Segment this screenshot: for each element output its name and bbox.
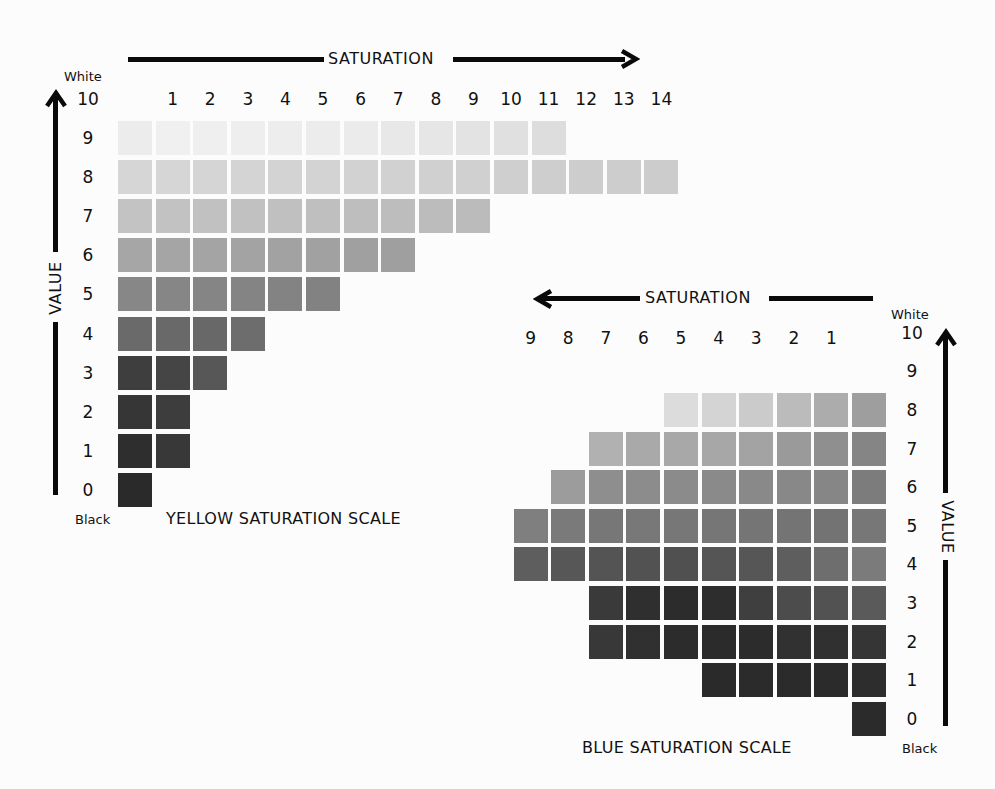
color-swatch — [702, 393, 736, 427]
color-swatch — [852, 393, 886, 427]
color-swatch — [193, 199, 227, 233]
color-swatch — [268, 238, 302, 272]
color-swatch — [551, 470, 585, 504]
value-tick: 2 — [897, 632, 927, 652]
blue-white-label: White — [891, 308, 929, 322]
yellow-value-arrow-line-bottom — [53, 322, 58, 495]
color-swatch — [702, 432, 736, 466]
color-swatch — [514, 547, 548, 581]
color-swatch — [702, 509, 736, 543]
color-swatch — [118, 356, 152, 390]
color-swatch — [193, 121, 227, 155]
yellow-value-arrow-line-top — [53, 96, 58, 252]
color-swatch — [702, 586, 736, 620]
value-tick: 5 — [73, 284, 103, 304]
saturation-tick: 6 — [346, 89, 376, 109]
value-tick: 10 — [897, 323, 927, 343]
yellow-saturation-arrow-line-left — [128, 57, 324, 62]
yellow-black-label: Black — [75, 513, 110, 527]
value-tick: 8 — [897, 400, 927, 420]
color-swatch — [456, 199, 490, 233]
blue-value-arrow-line-bottom — [943, 560, 948, 726]
color-swatch — [589, 625, 623, 659]
color-swatch — [702, 547, 736, 581]
color-swatch — [494, 160, 528, 194]
color-swatch — [532, 160, 566, 194]
color-swatch — [494, 121, 528, 155]
color-swatch — [589, 586, 623, 620]
color-swatch — [852, 702, 886, 736]
saturation-tick: 4 — [270, 89, 300, 109]
saturation-tick: 7 — [383, 89, 413, 109]
saturation-tick: 8 — [553, 328, 583, 348]
blue-value-arrow-line-top — [943, 335, 948, 493]
saturation-tick: 3 — [233, 89, 263, 109]
color-swatch — [664, 547, 698, 581]
saturation-tick: 5 — [308, 89, 338, 109]
color-swatch — [156, 434, 190, 468]
value-tick: 0 — [897, 709, 927, 729]
color-swatch — [532, 121, 566, 155]
color-swatch — [589, 470, 623, 504]
color-swatch — [306, 199, 340, 233]
color-swatch — [306, 238, 340, 272]
saturation-tick: 4 — [704, 328, 734, 348]
color-swatch — [156, 356, 190, 390]
color-swatch — [231, 121, 265, 155]
color-swatch — [118, 317, 152, 351]
color-swatch — [702, 625, 736, 659]
color-swatch — [644, 160, 678, 194]
color-swatch — [156, 199, 190, 233]
color-swatch — [852, 432, 886, 466]
color-swatch — [777, 586, 811, 620]
saturation-tick: 14 — [646, 89, 676, 109]
saturation-tick: 5 — [666, 328, 696, 348]
color-swatch — [777, 470, 811, 504]
color-swatch — [814, 586, 848, 620]
color-swatch — [551, 547, 585, 581]
color-swatch — [231, 160, 265, 194]
color-swatch — [193, 160, 227, 194]
color-swatch — [344, 238, 378, 272]
color-swatch — [419, 160, 453, 194]
color-swatch — [231, 277, 265, 311]
yellow-value-axis-label: VALUE — [46, 258, 65, 317]
color-swatch — [852, 509, 886, 543]
color-swatch — [814, 470, 848, 504]
blue-saturation-axis-label: SATURATION — [643, 288, 753, 307]
color-swatch — [702, 470, 736, 504]
color-swatch — [852, 547, 886, 581]
color-swatch — [739, 509, 773, 543]
color-swatch — [156, 238, 190, 272]
blue-black-label: Black — [902, 742, 937, 756]
color-swatch — [268, 160, 302, 194]
value-tick: 4 — [73, 324, 103, 344]
yellow-saturation-axis-label: SATURATION — [326, 49, 436, 68]
yellow-scale-title: YELLOW SATURATION SCALE — [166, 509, 401, 528]
color-swatch — [268, 121, 302, 155]
arrow-right-icon — [618, 48, 640, 70]
yellow-saturation-arrow-line-right — [453, 57, 625, 62]
color-swatch — [739, 663, 773, 697]
saturation-tick: 11 — [534, 89, 564, 109]
color-swatch — [381, 238, 415, 272]
color-swatch — [306, 121, 340, 155]
color-swatch — [814, 663, 848, 697]
color-swatch — [814, 625, 848, 659]
saturation-tick: 7 — [591, 328, 621, 348]
saturation-tick: 12 — [571, 89, 601, 109]
color-swatch — [814, 509, 848, 543]
value-tick: 1 — [897, 670, 927, 690]
color-swatch — [852, 586, 886, 620]
value-tick: 7 — [897, 439, 927, 459]
color-swatch — [626, 509, 660, 543]
color-swatch — [626, 547, 660, 581]
color-swatch — [664, 393, 698, 427]
color-swatch — [456, 121, 490, 155]
color-swatch — [156, 160, 190, 194]
color-swatch — [118, 160, 152, 194]
yellow-white-label: White — [64, 70, 102, 84]
value-tick: 9 — [897, 361, 927, 381]
color-swatch — [381, 199, 415, 233]
color-swatch — [306, 160, 340, 194]
